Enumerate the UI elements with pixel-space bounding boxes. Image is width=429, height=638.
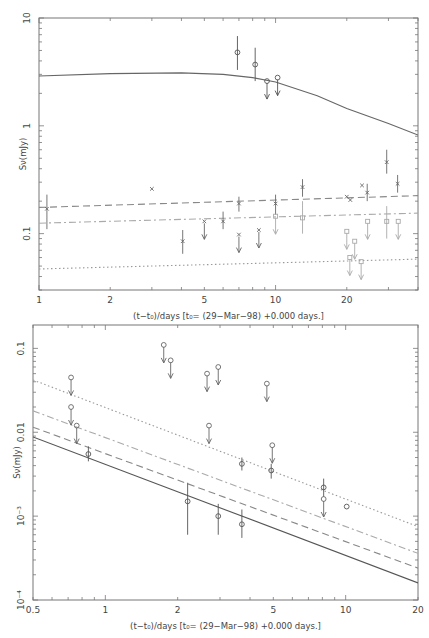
x-tick-label: 10 [340,605,352,615]
axis-ticks [39,18,418,290]
x-axis-label: (t−t₀)/days [t₀= (29−Mar−98) +0.000 days… [133,311,324,321]
top-chart: 12510201010.1(t−t₀)/days [t₀= (29−Mar−98… [18,12,418,321]
x-tick-label: 0.5 [26,605,40,615]
optical-light-points [273,201,401,279]
model-dashed-line [39,196,418,208]
model-solid-line [33,437,418,583]
plot-area [39,36,418,280]
y-tick-label: 10 [22,12,32,24]
figure: 12510201010.1(t−t₀)/days [t₀= (29−Mar−98… [0,0,429,638]
y-tick-label: 10⁻⁴ [16,590,26,610]
plot-area [33,343,418,583]
model-dashed-line [33,427,418,568]
y-axis-label: Sν(mJy) [12,446,22,479]
plot-frame [39,18,418,290]
upper-limits-points [69,343,327,517]
x-tick-label: 1 [36,295,42,305]
x-tick-label: 1 [102,605,108,615]
y-tick-label: 0.1 [22,226,32,240]
x-axis-label: (t−t₀)/days [t₀= (29−Mar−98) +0.000 days… [130,621,321,631]
y-tick-label: 0.1 [16,341,26,355]
x-tick-label: 5 [201,295,207,305]
x-tick-label: 2 [175,605,181,615]
x-tick-label: 20 [412,605,424,615]
x-tick-label: 2 [107,295,113,305]
detections-points [86,446,349,538]
x-tick-label: 10 [270,295,282,305]
radio-detections-points [235,36,280,99]
y-tick-label: 1 [22,123,32,129]
y-axis-label: Sν(mJy) [18,138,28,171]
plot-frame [33,325,418,600]
x-tick-label: 5 [270,605,276,615]
model-dashdot-line [33,411,418,553]
optical-dark-points [45,150,399,254]
x-tick-label: 20 [341,295,353,305]
y-tick-label: 0.01 [16,422,26,442]
model-solid-line [39,73,418,135]
y-tick-label: 10⁻³ [16,506,26,526]
model-dashdot-line [39,213,418,223]
axis-ticks [33,325,418,600]
bottom-chart: 0.512510200.10.0110⁻³10⁻⁴(t−t₀)/days [t₀… [12,325,424,631]
